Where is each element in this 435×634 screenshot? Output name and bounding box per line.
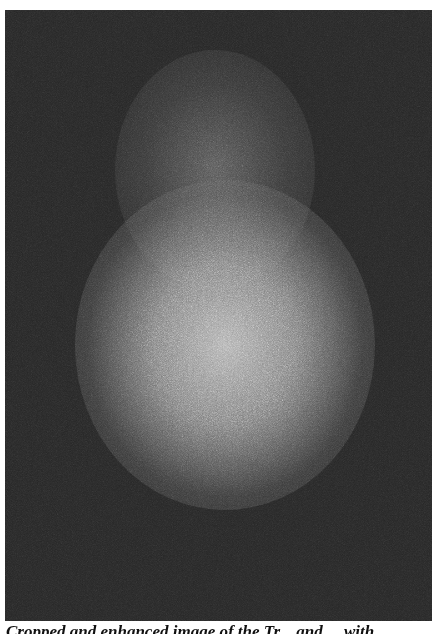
- film-grain-texture: [5, 10, 432, 621]
- figure-photo: [5, 10, 432, 621]
- figure-caption: Cropped and enhanced image of the Tr... …: [6, 622, 435, 634]
